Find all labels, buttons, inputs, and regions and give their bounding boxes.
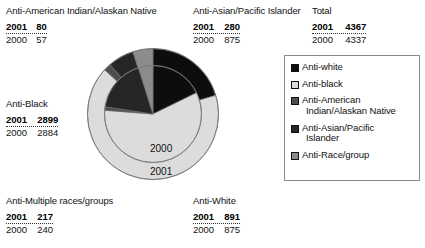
year-value: 2899 [37,115,58,125]
callout-2001-row: 2001891 [193,212,240,223]
legend-item[interactable]: Anti-Asian/PacificIslander [291,123,414,144]
callout-2001-row: 20014367 [312,22,366,33]
callout-total: Total 20014367 20004337 [312,6,366,45]
year-value: 80 [36,22,47,32]
year-label: 2001 [312,22,333,32]
year-value: 57 [36,35,47,45]
callout-anti-white: Anti-White 2001891 2000875 [193,196,240,235]
year-label: 2001 [193,212,214,222]
callout-title: Anti-Multiple races/groups [6,196,113,206]
year-value: 4367 [345,22,366,32]
legend-item[interactable]: Anti-Race/group [291,150,414,161]
callout-2000-row: 2000875 [193,35,301,45]
legend-item-label: Anti-black [302,79,343,90]
callout-anti-black: Anti-Black 20012899 20002884 [6,99,58,138]
callout-2000-row: 2000240 [6,225,113,235]
legend-swatch-icon [291,81,299,89]
callout-2000-row: 20004337 [312,35,366,45]
callout-2001-row: 2001217 [6,212,53,223]
year-label: 2000 [6,35,27,45]
callout-2000-row: 200057 [6,35,157,45]
callout-anti-american-indian: Anti-American Indian/Alaskan Native 2001… [6,6,157,45]
concentric-pie-chart [86,47,220,181]
legend-item[interactable]: Anti-black [291,79,414,90]
year-value: 2884 [37,128,58,138]
year-value: 875 [224,225,240,235]
legend-swatch-icon [291,97,299,105]
legend-swatch-icon [291,64,299,72]
pie-svg [86,47,220,181]
legend-item-label-line2: Islander [302,133,374,144]
pie-inner-ring-label: 2000 [150,143,172,154]
year-label: 2000 [6,128,27,138]
pie-outer-ring-label: 2001 [150,166,172,177]
callout-2001-row: 2001280 [193,22,240,33]
year-label: 2000 [193,225,214,235]
callout-title: Anti-Asian/Pacific Islander [193,6,301,16]
legend-item-label: Anti-AmericanIndian/Alaskan Native [302,95,396,116]
legend-item-label: Anti-Race/group [302,150,369,161]
callout-title: Anti-Black [6,99,58,109]
callout-anti-asian-pacific-islander: Anti-Asian/Pacific Islander 2001280 2000… [193,6,301,45]
year-label: 2000 [193,35,214,45]
legend-list: Anti-whiteAnti-blackAnti-AmericanIndian/… [291,62,414,160]
legend-box: Anti-whiteAnti-blackAnti-AmericanIndian/… [284,55,420,181]
callout-title: Anti-White [193,196,240,206]
callout-2001-row: 200180 [6,22,47,33]
year-label: 2001 [193,22,214,32]
legend-item-label: Anti-white [302,62,343,73]
callout-title: Total [312,6,366,16]
year-label: 2000 [312,35,333,45]
year-label: 2001 [6,212,27,222]
year-value: 4337 [345,35,366,45]
callout-anti-multiple-races: Anti-Multiple races/groups 2001217 20002… [6,196,113,235]
callout-2000-row: 20002884 [6,128,58,138]
legend-item-label-line2: Indian/Alaskan Native [302,106,396,117]
callout-2001-row: 20012899 [6,115,58,126]
year-label: 2001 [6,22,27,32]
year-value: 217 [37,212,53,222]
year-value: 240 [37,225,53,235]
callout-title: Anti-American Indian/Alaskan Native [6,6,157,16]
callout-2000-row: 2000875 [193,225,240,235]
year-value: 280 [224,22,240,32]
year-value: 891 [224,212,240,222]
legend-item[interactable]: Anti-AmericanIndian/Alaskan Native [291,95,414,116]
legend-swatch-icon [291,152,299,160]
year-label: 2001 [6,115,27,125]
legend-swatch-icon [291,125,299,133]
legend-item[interactable]: Anti-white [291,62,414,73]
legend-item-label: Anti-Asian/PacificIslander [302,123,374,144]
chart-figure: Anti-American Indian/Alaskan Native 2001… [0,0,425,248]
year-label: 2000 [6,225,27,235]
year-value: 875 [224,35,240,45]
